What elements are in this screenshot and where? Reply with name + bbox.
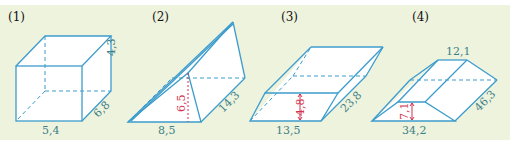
figure-4-bottom-base: 34,2 bbox=[402, 124, 427, 137]
figure-3-height: 4,8 bbox=[294, 99, 307, 117]
figure-4-label: (4) bbox=[412, 10, 429, 24]
figure-1-height: 4,3 bbox=[105, 39, 118, 57]
figure-2-triangle-height: 6,5 bbox=[175, 95, 188, 113]
figure-4-trapezoidal-prism: (4) 12,1 34,2 7,1 46,3 bbox=[372, 10, 498, 137]
figure-1-label: (1) bbox=[8, 10, 25, 24]
figure-2-triangular-prism: (2) 8,5 6,5 14,3 bbox=[128, 10, 245, 137]
figure-1-length: 5,4 bbox=[42, 124, 60, 137]
figure-3-parallelepiped: (3) 13,5 4,8 23,8 bbox=[250, 10, 383, 137]
figure-1-rectangular-prism: (1) 5,4 6,8 4,3 bbox=[8, 10, 118, 137]
figure-2-label: (2) bbox=[152, 10, 169, 24]
prism-figures: (1) 5,4 6,8 4,3 (2) 8,5 6,5 14,3 bbox=[0, 0, 510, 147]
figure-3-base: 13,5 bbox=[276, 124, 301, 137]
figure-4-top-base: 12,1 bbox=[446, 45, 471, 58]
figure-3-label: (3) bbox=[281, 10, 298, 24]
figure-4-height: 7,1 bbox=[398, 103, 411, 121]
figure-2-base: 8,5 bbox=[158, 124, 176, 137]
